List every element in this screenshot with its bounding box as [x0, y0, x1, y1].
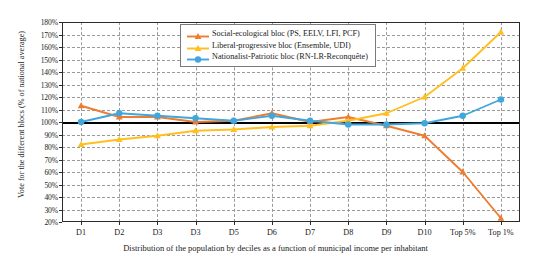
x-tick-label: D2 [114, 228, 124, 237]
x-tick-label: D8 [343, 228, 353, 237]
x-tick-label: D1 [76, 228, 86, 237]
legend-marker-icon [186, 51, 210, 62]
x-tick-mark [386, 222, 387, 225]
y-tick-label: 50% [44, 180, 58, 189]
y-tick-label: 70% [44, 155, 58, 164]
y-axis-title: Vote for the different blocs (% of natio… [17, 10, 26, 220]
x-tick-label: D9 [381, 228, 391, 237]
y-tick-label: 60% [44, 168, 58, 177]
x-tick-label: Top 1% [488, 228, 514, 237]
x-tick-mark [157, 222, 158, 225]
legend-label: Nationalist-Patriotic bloc (RN-LR-Reconq… [210, 52, 368, 61]
legend-label: Social-ecological bloc (PS, EELV, LFI, P… [210, 29, 360, 38]
legend-item-3[interactable]: Nationalist-Patriotic bloc (RN-LR-Reconq… [186, 51, 368, 63]
legend-label: Liberal-progressive bloc (Ensemble, UDI) [210, 41, 351, 50]
x-tick-mark [81, 222, 82, 225]
y-tick-label: 30% [44, 205, 58, 214]
y-tick-label: 140% [41, 68, 58, 77]
y-tick-label: 40% [44, 193, 58, 202]
y-tick-label: 180% [41, 18, 58, 27]
x-tick-label: D3 [191, 228, 201, 237]
x-tick-label: D7 [305, 228, 315, 237]
x-tick-label: D5 [229, 228, 239, 237]
y-tick-label: 20% [44, 218, 58, 227]
x-tick-mark [196, 222, 197, 225]
chart-figure: Vote for the different blocs (% of natio… [0, 0, 551, 262]
legend-marker-icon [186, 28, 210, 39]
y-tick-label: 150% [41, 55, 58, 64]
legend-item-2[interactable]: Liberal-progressive bloc (Ensemble, UDI) [186, 40, 368, 52]
x-tick-mark [272, 222, 273, 225]
x-tick-label: D10 [418, 228, 432, 237]
y-tick-label: 120% [41, 93, 58, 102]
x-axis-title: Distribution of the population by decile… [0, 243, 551, 253]
legend-marker-icon [186, 40, 210, 51]
x-tick-label: D6 [267, 228, 277, 237]
legend-item-1[interactable]: Social-ecological bloc (PS, EELV, LFI, P… [186, 28, 368, 40]
y-tick-label: 170% [41, 30, 58, 39]
x-tick-mark [348, 222, 349, 225]
x-tick-mark [234, 222, 235, 225]
y-tick-label: 90% [44, 130, 58, 139]
x-tick-mark [310, 222, 311, 225]
y-tick-label: 80% [44, 143, 58, 152]
x-tick-label: Top 5% [450, 228, 476, 237]
y-tick-mark [59, 222, 62, 223]
y-tick-label: 110% [41, 105, 58, 114]
x-tick-mark [425, 222, 426, 225]
x-tick-mark [119, 222, 120, 225]
x-tick-label: D3 [152, 228, 162, 237]
y-tick-label: 160% [41, 43, 58, 52]
x-tick-mark [463, 222, 464, 225]
legend: Social-ecological bloc (PS, EELV, LFI, P… [180, 24, 376, 67]
x-tick-mark [501, 222, 502, 225]
y-tick-label: 130% [41, 80, 58, 89]
y-tick-label: 100% [41, 118, 58, 127]
